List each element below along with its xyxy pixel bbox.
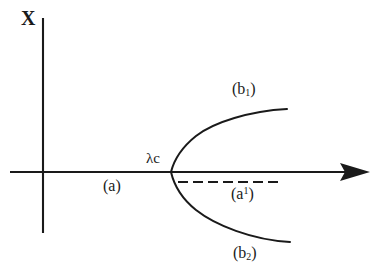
upper-branch-label: (b1): [232, 81, 256, 97]
bifurcation-figure: X λc (a) (a1) (b1) (b2): [0, 0, 380, 276]
unstable-branch-label-close: ): [248, 185, 253, 202]
upper-branch-label-text: (b: [232, 80, 245, 97]
lower-branch-label-text: (b: [233, 244, 246, 261]
unstable-branch-label: (a1): [231, 186, 254, 202]
critical-point-label: λc: [146, 151, 160, 166]
lower-branch-label-close: ): [251, 244, 256, 261]
lower-branch-label: (b2): [233, 245, 257, 261]
vertical-axis-label: X: [21, 8, 35, 28]
upper-branch-label-close: ): [250, 80, 255, 97]
figure-canvas: [0, 0, 380, 276]
unstable-branch-label-text: (a: [231, 185, 243, 202]
stable-branch-label: (a): [103, 178, 121, 194]
upper-branch-curve: [171, 109, 287, 172]
